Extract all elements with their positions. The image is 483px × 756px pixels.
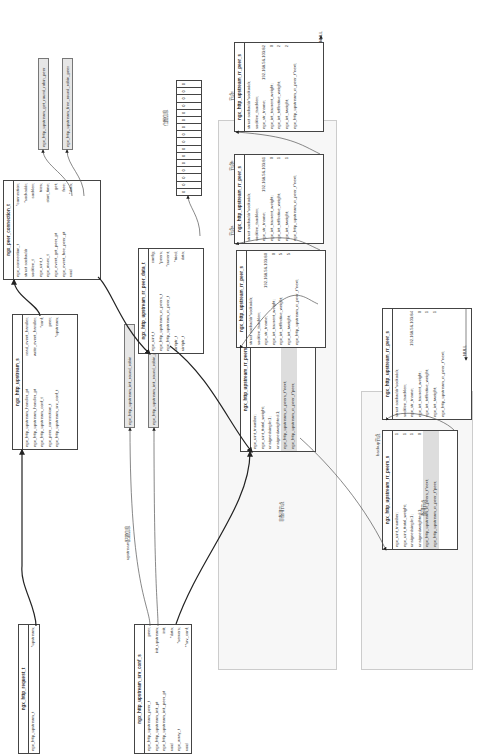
arrow-request-to-upstream [22,450,36,626]
arrow-data-to-peer-data [98,277,150,354]
arrow-tried-to-bitmap [188,196,200,236]
arrow-init-upstream [130,428,150,626]
diagram-canvas: ngx_http_request_t ngx_http_upstream_t*u… [0,0,483,756]
arrow-init-peer [154,428,158,626]
arrow-backup-peer [386,413,454,430]
pointer-arrows [0,0,483,756]
arrow-upstream-to-peer-connection [14,280,40,316]
arrow-srvconf-data-to-peers [176,452,250,624]
arrow-next-a-to-b [236,238,320,250]
arrow-free-to-function [67,150,84,196]
arrow-next-b-to-c [236,132,320,154]
arrow-peerdata-peers-to-peers [170,346,252,452]
arrow-get-to-function [43,150,72,196]
arrow-peer-to-node-a [240,295,318,348]
arrow-next-peers-to-backup [300,438,386,550]
